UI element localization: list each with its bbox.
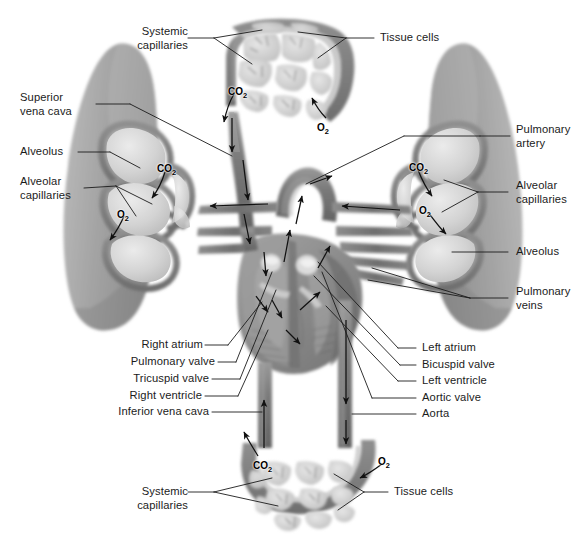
label-tissue-cells-top: Tissue cells: [380, 31, 439, 45]
label-alveolus-left: Alveolus: [20, 145, 63, 159]
label-alveolar-capillaries-left: Alveolar capillaries: [20, 175, 71, 202]
label-pulmonary-veins: Pulmonary veins: [516, 285, 570, 312]
label-left-ventricle: Left ventricle: [422, 374, 487, 388]
anatomical-artwork: [0, 0, 586, 551]
circulation-diagram-figure: Systemic capillaries Tissue cells Superi…: [0, 0, 586, 551]
co2-left-lung: CO2: [157, 163, 176, 177]
label-tissue-cells-bottom: Tissue cells: [394, 485, 453, 499]
inferior-vena-cava-vessel: [258, 362, 272, 448]
co2-top-capillary: CO2: [228, 86, 247, 100]
label-aortic-valve: Aortic valve: [422, 391, 481, 405]
label-inferior-vena-cava: Inferior vena cava: [75, 405, 209, 419]
o2-top-capillary: O2: [317, 122, 329, 136]
label-alveolus-right: Alveolus: [516, 245, 559, 259]
o2-left-lung: O2: [117, 209, 129, 223]
left-alveolar-cluster: [101, 124, 192, 289]
label-left-atrium: Left atrium: [422, 341, 476, 355]
aorta-descending-vessel: [338, 300, 352, 448]
label-pulmonary-artery: Pulmonary artery: [516, 123, 570, 150]
label-systemic-capillaries-bottom: Systemic capillaries: [74, 485, 188, 512]
label-right-atrium: Right atrium: [95, 338, 203, 352]
label-aorta: Aorta: [422, 407, 449, 421]
pulmonary-trunk-and-arch: [276, 167, 337, 222]
co2-bottom-capillary: CO2: [253, 460, 272, 474]
label-bicuspid-valve: Bicuspid valve: [422, 358, 495, 372]
label-right-ventricle: Right ventricle: [85, 389, 202, 403]
o2-right-lung: O2: [419, 205, 431, 219]
label-pulmonary-valve: Pulmonary valve: [85, 355, 215, 369]
label-systemic-capillaries-top: Systemic capillaries: [74, 25, 188, 52]
label-alveolar-capillaries-right: Alveolar capillaries: [516, 179, 567, 206]
co2-right-lung: CO2: [409, 162, 428, 176]
label-tricuspid-valve: Tricuspid valve: [85, 372, 209, 386]
label-superior-vena-cava: Superior vena cava: [20, 91, 72, 118]
o2-bottom-capillary: O2: [378, 456, 390, 470]
